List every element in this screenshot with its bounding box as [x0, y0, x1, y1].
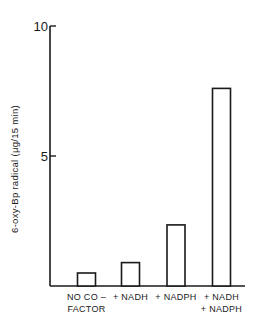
- x-tick-label: + NADH: [204, 292, 239, 302]
- labels: NO CO –FACTOR+ NADH+ NADPH+ NADH+ NADPH: [67, 292, 242, 314]
- x-tick-label: + NADPH: [155, 292, 196, 302]
- bars: [78, 88, 231, 286]
- x-tick-label: NO CO –: [67, 292, 106, 302]
- x-tick-label: + NADPH: [201, 304, 242, 314]
- bar: [122, 263, 140, 286]
- y-tick-label: 5: [41, 149, 48, 164]
- bar: [213, 88, 231, 286]
- x-tick-label: + NADH: [113, 292, 148, 302]
- x-tick-label: FACTOR: [67, 304, 105, 314]
- y-tick-label: 10: [34, 19, 48, 34]
- y-axis-title: 6-oxy-Bp radical (μg/15 min): [9, 105, 20, 233]
- bar: [167, 225, 185, 286]
- bar: [78, 273, 96, 286]
- bar-chart: 510 NO CO –FACTOR+ NADH+ NADPH+ NADH+ NA…: [0, 0, 258, 326]
